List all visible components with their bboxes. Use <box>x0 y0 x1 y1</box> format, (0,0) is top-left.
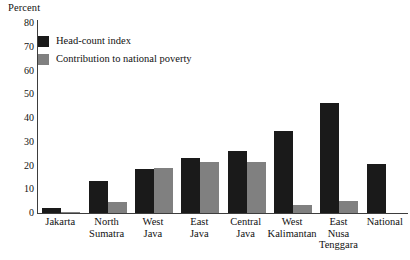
y-axis-tick-label: 30 <box>4 137 34 147</box>
bar-contribution-to-national-poverty <box>339 201 358 213</box>
y-axis-tick-label: 80 <box>4 18 34 28</box>
y-axis-tick-label: 50 <box>4 89 34 99</box>
legend-label: Contribution to national poverty <box>56 53 192 65</box>
x-axis-label-line: National <box>356 216 410 228</box>
bar-contribution-to-national-poverty <box>200 162 219 213</box>
y-axis-tick-label: 20 <box>4 161 34 171</box>
bar-head-count-index <box>274 131 293 213</box>
legend-swatch-icon <box>38 54 49 65</box>
y-axis-tick-label: 40 <box>4 113 34 123</box>
bar-head-count-index <box>320 103 339 213</box>
bar-group <box>274 23 312 213</box>
x-axis-label-line: Nusa <box>309 228 367 240</box>
bar-group <box>367 23 405 213</box>
bar-contribution-to-national-poverty <box>61 212 80 213</box>
bar-contribution-to-national-poverty <box>108 202 127 213</box>
legend-item: Contribution to national poverty <box>38 51 192 67</box>
legend-label: Head-count index <box>56 35 131 47</box>
bar-group <box>228 23 266 213</box>
bar-head-count-index <box>135 169 154 213</box>
bar-head-count-index <box>181 158 200 213</box>
bar-head-count-index <box>367 164 386 213</box>
bar-group <box>320 23 358 213</box>
x-axis-label: National <box>356 216 410 228</box>
bar-contribution-to-national-poverty <box>154 168 173 213</box>
bar-head-count-index <box>42 208 61 213</box>
x-axis-labels: JakartaNorthSumatraWestJavaEastJavaCentr… <box>37 216 408 260</box>
legend-swatch-icon <box>38 36 49 47</box>
y-axis-tick-label: 0 <box>4 208 34 218</box>
bar-contribution-to-national-poverty <box>293 205 312 213</box>
x-axis-label-line: Tenggara <box>309 239 367 251</box>
bar-head-count-index <box>228 151 247 213</box>
y-axis-tick-label: 10 <box>4 184 34 194</box>
bar-head-count-index <box>89 181 108 213</box>
y-axis-tick-label: 60 <box>4 66 34 76</box>
bar-contribution-to-national-poverty <box>247 162 266 213</box>
bar-chart: Percent 80706050403020100 JakartaNorthSu… <box>0 0 410 260</box>
legend-item: Head-count index <box>38 33 192 49</box>
chart-legend: Head-count indexContribution to national… <box>38 33 192 69</box>
y-axis-tick-label: 70 <box>4 42 34 52</box>
